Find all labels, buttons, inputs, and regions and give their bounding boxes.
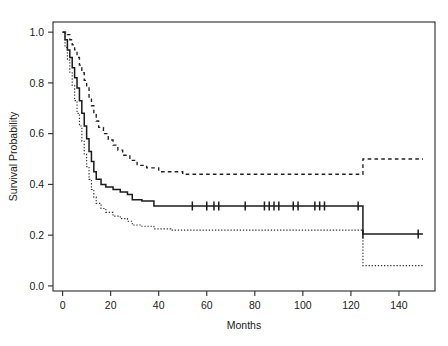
survival-curve-figure: 020406080100120140 0.00.20.40.60.81.0 Mo…	[0, 0, 448, 346]
x-tick-label: 100	[294, 299, 312, 311]
y-tick-label: 0.6	[29, 127, 44, 139]
y-tick-label: 0.8	[29, 77, 44, 89]
x-tick-label: 40	[153, 299, 165, 311]
x-axis-tick-labels: 020406080100120140	[60, 299, 408, 311]
x-axis-title: Months	[227, 319, 261, 331]
curve-dashed	[63, 32, 423, 174]
survival-curves	[63, 32, 423, 265]
y-axis-title: Survival Probability	[7, 111, 19, 201]
curve-solid	[63, 32, 423, 234]
curve-dotted	[63, 32, 423, 265]
x-axis-ticks	[63, 291, 399, 296]
y-tick-label: 0.4	[29, 178, 44, 190]
x-tick-label: 140	[390, 299, 408, 311]
y-tick-label: 0.2	[29, 229, 44, 241]
y-tick-label: 1.0	[29, 26, 44, 38]
x-tick-label: 120	[342, 299, 360, 311]
frame-box	[53, 22, 435, 291]
x-tick-label: 0	[60, 299, 66, 311]
y-axis-tick-labels: 0.00.20.40.60.81.0	[29, 26, 44, 292]
censoring-marks	[192, 201, 418, 238]
y-tick-label: 0.0	[29, 280, 44, 292]
plot-area: 020406080100120140 0.00.20.40.60.81.0 Mo…	[0, 0, 448, 346]
x-tick-label: 80	[249, 299, 261, 311]
y-axis-ticks	[48, 32, 53, 286]
x-tick-label: 60	[201, 299, 213, 311]
plot-frame	[53, 22, 435, 291]
x-tick-label: 20	[105, 299, 117, 311]
